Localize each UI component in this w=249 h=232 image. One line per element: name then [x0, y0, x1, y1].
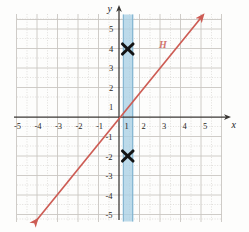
y-tick-2: 2 [109, 83, 113, 93]
x-tick-3: 3 [162, 121, 166, 131]
y-tick-3: 3 [109, 63, 113, 73]
x-tick--1: -1 [96, 121, 103, 131]
x-axis-label: x [231, 119, 237, 130]
x-tick--3: -3 [55, 121, 62, 131]
x-tick--4: -4 [34, 121, 42, 131]
y-tick-5: 5 [109, 24, 113, 34]
graph-figure: y x -5 -4 -3 -2 -1 1 2 3 4 5 5 4 3 2 1 -… [0, 0, 249, 232]
coordinate-plane-svg: y x -5 -4 -3 -2 -1 1 2 3 4 5 5 4 3 2 1 -… [0, 0, 249, 232]
line-label-h: H [158, 39, 168, 50]
x-tick--5: -5 [14, 121, 21, 131]
x-tick-2: 2 [141, 121, 145, 131]
x-tick-5: 5 [203, 121, 207, 131]
y-tick-1: 1 [109, 102, 113, 112]
y-tick--3: -3 [105, 171, 112, 181]
x-tick--2: -2 [75, 121, 82, 131]
x-tick-1: 1 [124, 121, 128, 131]
y-tick--2: -2 [105, 152, 112, 162]
y-tick--4: -4 [105, 191, 113, 201]
y-axis-label: y [107, 3, 113, 14]
y-tick--5: -5 [105, 210, 112, 220]
